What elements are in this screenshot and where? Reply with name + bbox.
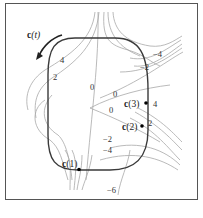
level-label: 4	[60, 55, 65, 65]
level-label: 2	[148, 118, 152, 128]
level-labels: 4 2 0 0 0 0 −4 −2 4 2 −2 −4 −6	[53, 49, 163, 195]
level-label: 0	[90, 82, 94, 92]
point-c3	[144, 101, 148, 105]
point-c2	[140, 124, 144, 128]
point-label-c3: c(3)	[124, 99, 139, 110]
level-curve-diagram: c(t) c(1) c(2) c(3) 4 2 0 0 0 0 −4 −2 4 …	[0, 0, 203, 218]
level-label: 4	[153, 99, 158, 109]
point-label-c1: c(1)	[62, 159, 77, 170]
curve-label: c(t)	[27, 30, 40, 41]
level-label: −4	[103, 145, 113, 155]
level-label: −4	[153, 49, 163, 59]
level-label: 0	[113, 89, 117, 99]
level-label: 0	[109, 105, 113, 115]
level-label: −2	[103, 134, 112, 144]
level-label: 2	[53, 72, 57, 82]
point-c1	[77, 168, 81, 172]
level-label: −6	[107, 185, 116, 195]
point-label-c2: c(2)	[122, 122, 137, 133]
level-curves	[27, 12, 183, 195]
level-label: −2	[140, 62, 149, 72]
